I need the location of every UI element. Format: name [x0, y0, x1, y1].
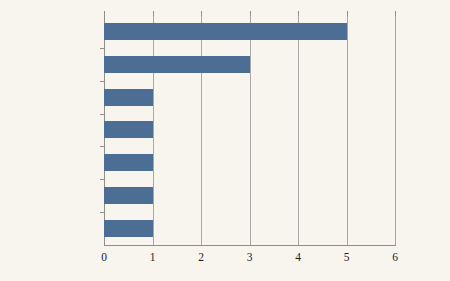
x-tick-label: 0: [89, 251, 119, 264]
bar-row: 服务合同纠纷: [104, 81, 395, 114]
bar: [104, 56, 250, 73]
bar-chart: 买卖合同纠纷借款合同纠纷服务合同纠纷运输合同纠纷确认合同效力纠纷建设工程合同纠纷…: [0, 0, 450, 281]
y-axis-tick: [100, 212, 105, 213]
x-tick-label: 3: [235, 251, 265, 264]
x-gridline: [395, 15, 396, 245]
bar-row: 居间合同纠纷: [104, 212, 395, 245]
y-axis-tick: [100, 114, 105, 115]
y-axis-tick: [100, 48, 105, 49]
bar: [104, 89, 153, 106]
bar: [104, 220, 153, 237]
bar-row: 建设工程合同纠纷: [104, 179, 395, 212]
x-tick-label: 5: [332, 251, 362, 264]
bar: [104, 154, 153, 171]
bar-row: 买卖合同纠纷: [104, 15, 395, 48]
bar-row: 运输合同纠纷: [104, 114, 395, 147]
bar-row: 确认合同效力纠纷: [104, 146, 395, 179]
bar-row: 借款合同纠纷: [104, 48, 395, 81]
plot-area: 买卖合同纠纷借款合同纠纷服务合同纠纷运输合同纠纷确认合同效力纠纷建设工程合同纠纷…: [104, 15, 395, 245]
x-tick-label: 6: [380, 251, 410, 264]
x-tick-label: 4: [283, 251, 313, 264]
x-tick-label: 2: [186, 251, 216, 264]
bar: [104, 121, 153, 138]
bar: [104, 187, 153, 204]
bar: [104, 23, 347, 40]
y-axis-tick: [100, 179, 105, 180]
x-axis-line: [104, 245, 396, 246]
x-axis-top-tick: [395, 11, 396, 16]
x-tick-label: 1: [138, 251, 168, 264]
y-axis-tick: [100, 81, 105, 82]
y-axis-tick: [100, 146, 105, 147]
